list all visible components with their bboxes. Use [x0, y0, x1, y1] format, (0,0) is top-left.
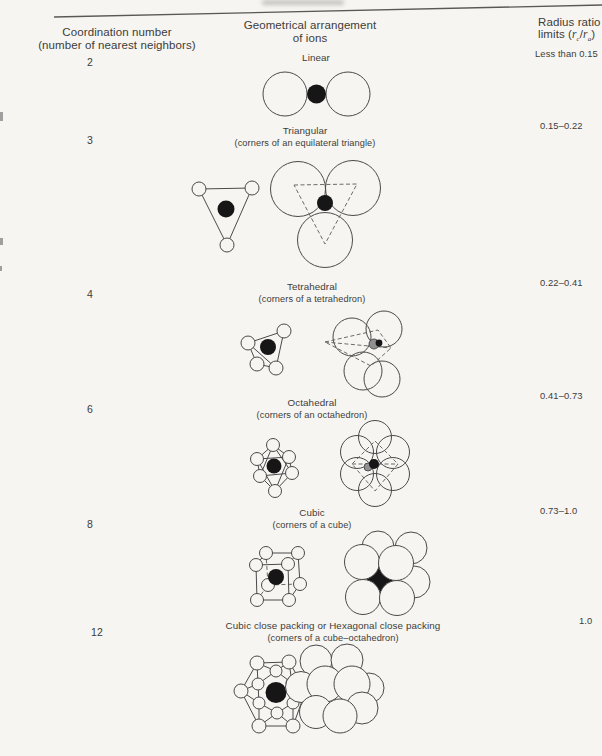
arrangement-name-tetrahedral: Tetrahedral — [287, 282, 337, 293]
radius-ratio-row3: 0.22–0.41 — [540, 278, 583, 289]
coordination-number-8: 8 — [87, 519, 93, 531]
limits-text: limits ( — [538, 28, 572, 40]
octahedral-corners-diagram — [251, 439, 299, 498]
linear-packing-diagram — [263, 72, 370, 116]
col3-header-line1: Radius ratio — [538, 16, 601, 29]
tetrahedral-packing-diagram — [325, 311, 402, 397]
arrangement-subtitle-close-packing: (corners of a cube–octahedron) — [267, 633, 398, 643]
radius-ratio-row5: 0.73–1.0 — [540, 506, 577, 517]
arrangement-subtitle-cubic: (corners of a cube) — [272, 520, 351, 530]
arrangement-name-triangular: Triangular — [283, 126, 328, 137]
col2-header-line2: of ions — [293, 32, 328, 45]
close-packing-diagram — [286, 644, 385, 733]
arrangement-name-octahedral: Octahedral — [288, 398, 337, 409]
table-top-rule — [54, 5, 602, 17]
col3-header-line2: limits (rc/ra) — [538, 28, 595, 44]
radius-ratio-row2: 0.15–0.22 — [540, 121, 583, 132]
radius-ratio-row1: Less than 0.15 — [535, 49, 598, 60]
arrangement-name-close-packing: Cubic close packing or Hexagonal close p… — [226, 621, 441, 632]
radius-ratio-row6: 1.0 — [579, 616, 592, 627]
coordination-number-12: 12 — [91, 627, 103, 639]
coordination-number-3: 3 — [87, 135, 93, 147]
col1-header-line1: Coordination number — [62, 26, 171, 39]
col2-header-line1: Geometrical arrangement — [244, 19, 377, 32]
col1-header-line2: (number of nearest neighbors) — [38, 39, 196, 52]
cubic-corners-diagram — [250, 547, 307, 607]
figure-page: Coordination number (number of nearest n… — [0, 0, 602, 756]
arrangement-subtitle-triangular: (corners of an equilateral triangle) — [235, 138, 376, 148]
coordination-number-2: 2 — [87, 57, 93, 69]
cubic-packing-diagram — [345, 531, 431, 616]
radius-ratio-row4: 0.41–0.73 — [540, 391, 583, 402]
octahedral-packing-diagram — [341, 421, 410, 507]
arrangement-name-linear: Linear — [302, 53, 330, 64]
arrangement-subtitle-tetrahedral: (corners of a tetrahedron) — [259, 294, 366, 304]
triangular-packing-diagram — [271, 161, 381, 268]
coordination-number-4: 4 — [87, 289, 93, 301]
arrangement-subtitle-octahedral: (corners of an octahedron) — [257, 410, 368, 420]
arrangement-name-cubic: Cubic — [299, 508, 325, 519]
triangular-corners-diagram — [192, 181, 259, 252]
close-paren: ) — [591, 28, 595, 40]
coordination-number-6: 6 — [87, 404, 93, 416]
tetrahedral-corners-diagram — [241, 324, 291, 375]
